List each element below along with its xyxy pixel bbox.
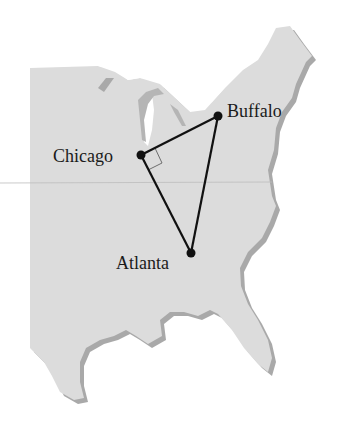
map-diagram: Chicago Buffalo Atlanta xyxy=(0,0,338,423)
city-label-atlanta: Atlanta xyxy=(116,253,169,273)
city-label-chicago: Chicago xyxy=(53,146,113,166)
city-dot-chicago xyxy=(137,151,146,160)
city-dot-atlanta xyxy=(187,249,196,258)
city-dot-buffalo xyxy=(214,112,223,121)
city-label-buffalo: Buffalo xyxy=(227,101,282,121)
